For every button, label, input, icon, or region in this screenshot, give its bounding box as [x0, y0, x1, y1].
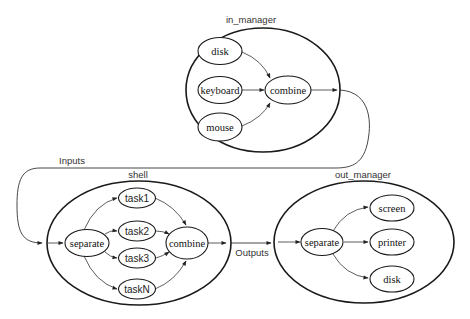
node-mouse-label: mouse	[206, 122, 234, 133]
edge-separate-taskN	[84, 256, 117, 289]
in-manager-group: in_manager disk keyboard mouse combine	[186, 14, 340, 152]
node-disk-label: disk	[211, 46, 229, 57]
process-diagram: in_manager disk keyboard mouse combine I…	[0, 0, 470, 319]
node-out-separate[interactable]: separate	[301, 229, 343, 256]
node-taskN-label: taskN	[124, 284, 150, 295]
node-shell-separate-label: separate	[70, 238, 105, 249]
node-in-combine[interactable]: combine	[265, 76, 311, 104]
inputs-arrow	[17, 90, 369, 243]
node-printer-label: printer	[378, 237, 406, 248]
node-in-combine-label: combine	[270, 85, 306, 96]
edge-task2-combine	[156, 231, 169, 234]
node-shell-combine[interactable]: combine	[166, 227, 208, 259]
edge-separate-screen	[333, 207, 368, 231]
edge-separate-task3	[105, 252, 117, 258]
inputs-label: Inputs	[59, 155, 85, 166]
outputs-label: Outputs	[235, 247, 269, 258]
node-screen-label: screen	[379, 203, 407, 214]
node-task2[interactable]: task2	[119, 221, 156, 241]
edge-separate-task1	[84, 198, 117, 230]
edge-separate-disk	[333, 254, 368, 278]
node-mouse[interactable]: mouse	[198, 113, 242, 141]
node-printer[interactable]: printer	[370, 229, 414, 255]
node-task3[interactable]: task3	[119, 248, 156, 268]
node-shell-separate[interactable]: separate	[65, 230, 109, 257]
inputs-connector: Inputs	[17, 90, 369, 243]
edge-mouse-combine	[242, 103, 270, 126]
node-out-separate-label: separate	[305, 237, 340, 248]
edge-task3-combine	[156, 252, 169, 258]
shell-title: shell	[128, 169, 148, 180]
node-task1-label: task1	[125, 193, 149, 204]
edge-disk-combine	[242, 52, 270, 78]
node-keyboard[interactable]: keyboard	[198, 77, 242, 104]
shell-group: shell separate task1 task2 task3	[47, 169, 231, 305]
edge-separate-task2	[105, 231, 117, 234]
in-manager-title: in_manager	[226, 14, 276, 25]
node-out-disk-label: disk	[383, 274, 401, 285]
node-screen[interactable]: screen	[370, 195, 414, 221]
node-task1[interactable]: task1	[119, 188, 156, 208]
out-manager-title: out_manager	[335, 169, 391, 180]
outputs-connector: Outputs	[231, 243, 271, 258]
edge-taskN-combine	[155, 261, 186, 289]
node-shell-combine-label: combine	[169, 238, 205, 249]
node-keyboard-label: keyboard	[200, 85, 240, 96]
node-disk[interactable]: disk	[198, 38, 242, 65]
out-manager-group: out_manager separate screen printer disk	[274, 169, 454, 303]
node-out-disk[interactable]: disk	[370, 266, 414, 292]
node-taskN[interactable]: taskN	[119, 279, 156, 299]
node-task3-label: task3	[125, 253, 149, 264]
edge-task1-combine	[155, 198, 186, 225]
node-task2-label: task2	[125, 226, 149, 237]
